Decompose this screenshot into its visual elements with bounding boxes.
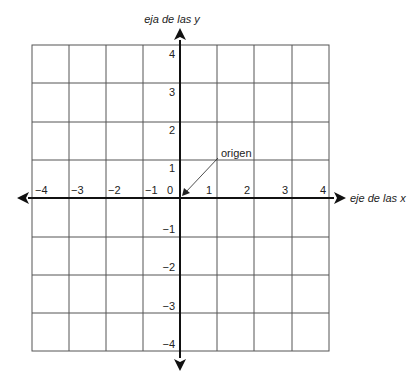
x-tick: 3 — [282, 184, 288, 196]
y-tick: 3 — [169, 86, 175, 98]
origin-label: origen — [221, 147, 252, 159]
x-tick: 1 — [206, 184, 212, 196]
arrow-right-icon — [334, 192, 346, 204]
y-tick: 2 — [169, 124, 175, 136]
y-axis-label: eja de las y — [144, 13, 201, 25]
x-tick: 0 — [167, 184, 173, 196]
y-tick: −1 — [162, 223, 175, 235]
origin-pointer — [182, 158, 218, 196]
x-tick: −4 — [35, 184, 48, 196]
x-tick: 4 — [320, 184, 326, 196]
arrow-down-icon — [174, 359, 186, 371]
arrow-left-icon — [17, 192, 29, 204]
x-tick: 2 — [244, 184, 250, 196]
y-axis — [174, 28, 186, 371]
arrow-up-icon — [174, 28, 186, 40]
y-tick: 1 — [169, 162, 175, 174]
y-tick: −4 — [162, 338, 175, 350]
x-axis-label: eje de las x — [350, 192, 406, 204]
y-tick: −3 — [162, 300, 175, 312]
x-tick: −3 — [71, 184, 84, 196]
x-tick: −1 — [145, 184, 158, 196]
y-tick: −2 — [162, 261, 175, 273]
y-tick: 4 — [169, 48, 175, 60]
coordinate-plane: eja de las y eje de las x origen −4 −3 −… — [0, 0, 417, 388]
x-axis — [17, 192, 346, 204]
x-tick: −2 — [108, 184, 121, 196]
